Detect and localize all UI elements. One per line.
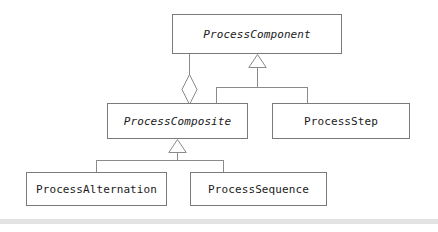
class-box-process-alternation[interactable]: ProcessAlternation	[26, 172, 167, 206]
generalization-crossbar-component	[216, 87, 308, 88]
footer-divider-band	[0, 219, 438, 224]
class-box-process-sequence[interactable]: ProcessSequence	[190, 172, 327, 206]
aggregation-line-vertical	[189, 54, 190, 75]
class-label-process-alternation: ProcessAlternation	[36, 183, 157, 196]
class-label-process-step: ProcessStep	[304, 115, 378, 128]
generalization-stem-component	[257, 67, 258, 88]
class-box-process-composite[interactable]: ProcessComposite	[107, 103, 248, 139]
hollow-triangle-icon-component	[248, 54, 267, 68]
class-box-process-component[interactable]: ProcessComponent	[172, 14, 342, 54]
uml-class-diagram-canvas: ProcessComponent ProcessComposite Proces…	[0, 0, 438, 232]
generalization-branch-to-step	[307, 87, 308, 104]
class-box-process-step[interactable]: ProcessStep	[272, 103, 410, 139]
generalization-crossbar-composite	[96, 160, 224, 161]
hollow-triangle-icon-composite	[168, 139, 187, 153]
generalization-branch-to-composite	[216, 87, 217, 104]
class-label-process-component: ProcessComponent	[203, 28, 311, 41]
class-label-process-sequence: ProcessSequence	[208, 183, 309, 196]
class-label-process-composite: ProcessComposite	[124, 115, 232, 128]
hollow-diamond-icon	[181, 74, 198, 105]
